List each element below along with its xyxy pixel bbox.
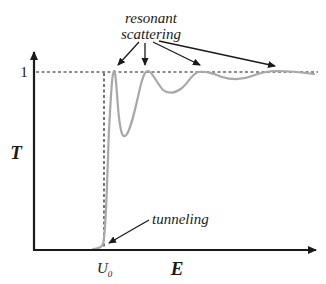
tunneling-arrow — [109, 220, 149, 243]
x-axis-label: E — [170, 258, 184, 279]
annotation-scattering: scattering — [121, 26, 181, 42]
annotation-tunneling: tunneling — [152, 211, 209, 227]
transmission-diagram: 1 T U0 E resonant scattering tunneling — [0, 0, 326, 284]
resonant-arrow-peak-1 — [118, 42, 139, 65]
y-tick-label-one: 1 — [20, 64, 28, 80]
diagram-canvas: 1 T U0 E resonant scattering tunneling — [0, 0, 326, 284]
annotation-resonant: resonant — [125, 10, 178, 26]
y-axis-label: T — [10, 142, 23, 163]
x-tick-label-u0: U0 — [97, 260, 113, 279]
u-subscript: 0 — [108, 269, 113, 279]
resonant-arrow-peak-3 — [153, 42, 200, 65]
